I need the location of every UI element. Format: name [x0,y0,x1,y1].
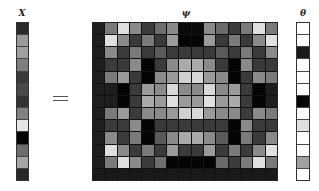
psi-matrix-cell [229,72,240,83]
psi-matrix-cell [167,145,178,156]
psi-matrix-cell [179,72,190,83]
psi-matrix-cell [266,132,277,143]
psi-matrix-cell [192,47,203,58]
psi-matrix-cell [118,120,129,131]
psi-matrix-cell [155,59,166,70]
psi-matrix-cell [167,120,178,131]
psi-matrix-cell [130,120,141,131]
psi-matrix-cell [192,35,203,46]
psi-matrix-cell [204,108,215,119]
psi-matrix-cell [118,108,129,119]
psi-matrix-cell [93,96,104,107]
psi-matrix-cell [204,169,215,180]
psi-matrix-cell [167,47,178,58]
psi-matrix-cell [93,169,104,180]
psi-matrix-cell [266,169,277,180]
psi-matrix-cell [241,145,252,156]
psi-matrix-cell [179,132,190,143]
psi-matrix-cell [155,157,166,168]
psi-matrix-cell [266,108,277,119]
psi-matrix-cell [216,108,227,119]
psi-matrix-cell [118,157,129,168]
x-vector-cell [17,47,28,59]
x-vector-cell [17,169,28,180]
psi-matrix-cell [229,157,240,168]
theta-vector-cell [297,47,309,59]
psi-matrix-cell [216,59,227,70]
theta-vector [296,22,310,181]
psi-matrix-cell [253,84,264,95]
theta-vector-cell [297,108,309,120]
psi-matrix-cell [216,132,227,143]
psi-matrix-cell [229,120,240,131]
x-vector-cell [17,23,28,35]
psi-matrix-cell [241,96,252,107]
psi-matrix-cell [241,132,252,143]
psi-matrix-cell [118,35,129,46]
psi-matrix-cell [155,120,166,131]
psi-matrix-cell [93,23,104,34]
x-vector-cell [17,145,28,157]
psi-matrix-cell [167,59,178,70]
psi-matrix-cell [229,59,240,70]
psi-matrix-cell [142,84,153,95]
psi-matrix-cell [155,96,166,107]
psi-matrix-cell [105,84,116,95]
psi-matrix-cell [167,23,178,34]
psi-matrix-cell [253,169,264,180]
psi-matrix-cell [118,132,129,143]
psi-matrix-cell [253,47,264,58]
psi-matrix-cell [167,72,178,83]
psi-matrix-cell [167,84,178,95]
psi-matrix-cell [167,108,178,119]
psi-matrix-cell [179,47,190,58]
psi-matrix-cell [192,145,203,156]
psi-matrix-cell [229,108,240,119]
psi-matrix-cell [155,108,166,119]
psi-matrix-cell [204,96,215,107]
psi-matrix-cell [155,72,166,83]
x-vector [16,22,29,181]
psi-matrix-cell [130,84,141,95]
psi-matrix-cell [130,157,141,168]
theta-vector-cell [297,145,309,157]
psi-matrix-cell [253,59,264,70]
psi-matrix-cell [192,96,203,107]
psi-matrix-cell [167,157,178,168]
psi-matrix-cell [93,35,104,46]
psi-matrix-cell [179,59,190,70]
psi-matrix-cell [105,23,116,34]
psi-matrix-cell [142,35,153,46]
psi-matrix-cell [241,72,252,83]
psi-matrix-cell [105,35,116,46]
psi-matrix-cell [253,35,264,46]
psi-matrix-cell [179,120,190,131]
psi-matrix-cell [216,84,227,95]
psi-matrix-cell [253,145,264,156]
psi-matrix-cell [167,96,178,107]
theta-vector-cell [297,23,309,35]
theta-vector-cell [297,72,309,84]
psi-matrix-cell [266,84,277,95]
x-vector-cell [17,59,28,71]
psi-matrix-cell [105,145,116,156]
psi-matrix-cell [130,108,141,119]
x-vector-cell [17,96,28,108]
psi-matrix-cell [241,84,252,95]
psi-matrix-cell [216,120,227,131]
psi-matrix-cell [229,23,240,34]
psi-matrix-cell [216,96,227,107]
psi-matrix-cell [216,47,227,58]
x-vector-cell [17,108,28,120]
psi-matrix-cell [229,169,240,180]
psi-matrix-cell [93,108,104,119]
psi-matrix-cell [142,169,153,180]
psi-matrix-cell [142,47,153,58]
psi-matrix-cell [192,132,203,143]
psi-matrix-cell [93,145,104,156]
psi-matrix-cell [155,169,166,180]
psi-matrix-cell [229,145,240,156]
psi-matrix-cell [204,145,215,156]
psi-matrix-cell [118,23,129,34]
psi-matrix-cell [155,35,166,46]
